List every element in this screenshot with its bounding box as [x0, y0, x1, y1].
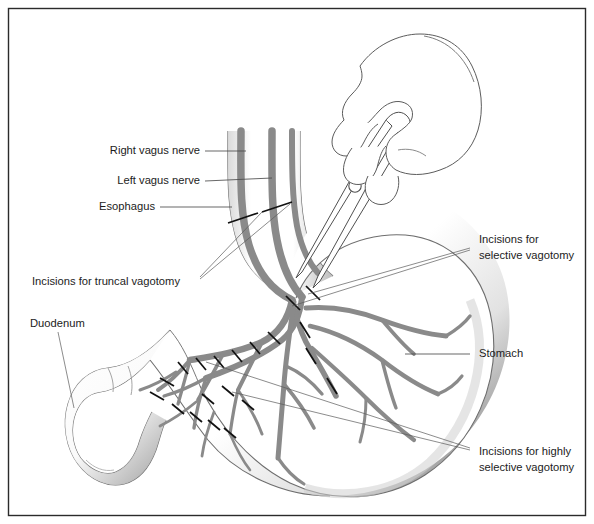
label-incisions-selective-line1: Incisions for: [479, 233, 539, 245]
label-stomach: Stomach: [479, 347, 523, 359]
label-incisions-highly-selective-line1: Incisions for highly: [479, 445, 571, 457]
label-incisions-selective-line2: selective vagotomy: [479, 249, 575, 261]
illustration-canvas: Right vagus nerve Left vagus nerve Esoph…: [0, 0, 594, 524]
label-duodenum: Duodenum: [30, 317, 85, 329]
leader-highly-b: [232, 392, 470, 450]
label-incisions-highly-selective-line2: selective vagotomy: [479, 461, 575, 473]
duodenum-structure: [65, 330, 170, 485]
vagotomy-figure: Right vagus nerve Left vagus nerve Esoph…: [0, 0, 594, 524]
label-left-vagus-nerve: Left vagus nerve: [117, 174, 200, 186]
label-right-vagus-nerve: Right vagus nerve: [110, 144, 200, 156]
leader-duodenum: [58, 332, 74, 408]
label-incisions-truncal-vagotomy: Incisions for truncal vagotomy: [32, 275, 180, 287]
leader-highly-a: [206, 362, 470, 448]
label-esophagus: Esophagus: [99, 200, 155, 212]
